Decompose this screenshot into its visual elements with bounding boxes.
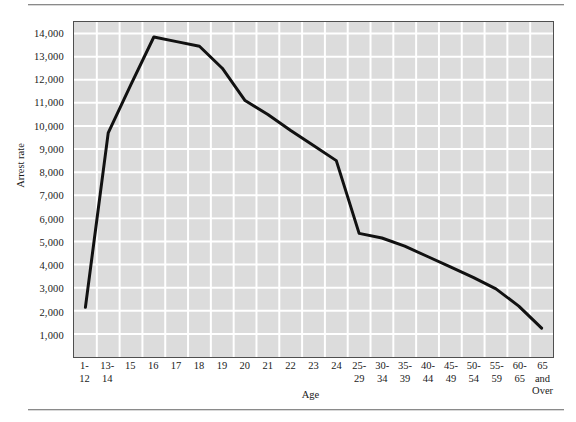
x-tick-label: 17 [171, 360, 182, 373]
y-axis-tick-labels: 1,0002,0003,0004,0005,0006,0007,0008,000… [0, 21, 68, 358]
bottom-divider-rule [28, 409, 564, 411]
x-tick-label: 19 [217, 360, 228, 373]
x-tick-label: 20 [240, 360, 251, 373]
x-axis-title-text: Age [302, 389, 320, 400]
y-tick-label: 7,000 [39, 190, 64, 201]
y-tick-label: 14,000 [34, 27, 64, 38]
x-tick-label: 1- 12 [79, 360, 90, 385]
y-tick-label: 3,000 [39, 283, 64, 294]
y-tick-label: 11,000 [34, 97, 64, 108]
x-tick-label: 21 [262, 360, 273, 373]
x-tick-label: 24 [331, 360, 342, 373]
x-tick-label: 16 [148, 360, 159, 373]
x-tick-label: 45- 49 [444, 360, 458, 385]
y-tick-label: 5,000 [39, 236, 64, 247]
y-tick-label: 10,000 [34, 120, 64, 131]
x-tick-label: 50- 54 [467, 360, 481, 385]
y-tick-label: 4,000 [39, 260, 64, 271]
plot-area [73, 21, 554, 358]
x-tick-label: 25- 29 [352, 360, 366, 385]
x-tick-label: 60- 65 [513, 360, 527, 385]
y-tick-label: 9,000 [39, 143, 64, 154]
x-tick-label: 15 [125, 360, 136, 373]
y-tick-label: 12,000 [34, 74, 64, 85]
y-tick-label: 8,000 [39, 167, 64, 178]
y-tick-label: 13,000 [34, 50, 64, 61]
y-tick-label: 1,000 [39, 329, 64, 340]
y-tick-label: 6,000 [39, 213, 64, 224]
x-tick-label: 55- 59 [490, 360, 504, 385]
top-divider-rule [28, 4, 564, 6]
x-tick-label: 40- 44 [421, 360, 435, 385]
x-tick-label: 22 [285, 360, 296, 373]
x-tick-label: 30- 34 [375, 360, 389, 385]
x-tick-label: 13- 14 [100, 360, 114, 385]
x-tick-label: 35- 39 [398, 360, 412, 385]
x-axis-title: Age [73, 389, 554, 400]
x-tick-label: 18 [194, 360, 205, 373]
chart-figure: Arrest rate 1,0002,0003,0004,0005,0006,0… [0, 0, 576, 422]
x-tick-label: 23 [308, 360, 319, 373]
y-tick-label: 2,000 [39, 306, 64, 317]
arrest-rate-line-series [74, 22, 553, 357]
